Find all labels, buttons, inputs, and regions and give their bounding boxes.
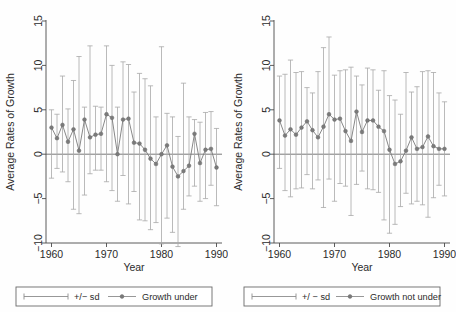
data-point-marker (160, 152, 164, 156)
x-tick-label: 1990 (205, 248, 228, 260)
data-point-marker (371, 119, 375, 123)
x-tick-label: 1960 (40, 248, 64, 260)
data-point-marker (316, 135, 320, 139)
data-point-marker (393, 162, 397, 166)
data-point-marker (77, 149, 81, 153)
data-point-marker (99, 132, 103, 136)
y-tick-label: 10 (32, 59, 44, 71)
data-point-marker (127, 117, 131, 121)
data-point-marker (215, 166, 219, 170)
data-point-marker (426, 135, 430, 139)
data-point-marker (132, 141, 136, 145)
x-tick-label: 1960 (268, 248, 292, 260)
legend-series-marker (120, 295, 124, 299)
x-tick-label: 1980 (150, 248, 174, 260)
data-point-marker (105, 112, 109, 116)
data-point-marker (61, 123, 65, 127)
data-point-marker (72, 127, 76, 131)
data-point-marker (176, 175, 180, 179)
data-point-marker (94, 133, 98, 137)
growth-rates-figure: −10−50510151960197019801990Average Rates… (0, 0, 456, 312)
left-panel: −10−50510151960197019801990Average Rates… (0, 0, 228, 312)
data-point-marker (143, 148, 147, 152)
data-point-marker (55, 136, 59, 140)
y-tick-label: 5 (260, 107, 272, 113)
right-panel: −10−50510151960197019801990Average Rates… (228, 0, 456, 312)
data-point-marker (399, 159, 403, 163)
left-panel-plot: −10−50510151960197019801990Average Rates… (0, 0, 228, 312)
data-point-marker (410, 135, 414, 139)
data-point-marker (138, 142, 142, 146)
data-point-marker (110, 116, 114, 120)
x-axis-title: Year (351, 261, 373, 273)
data-point-marker (311, 128, 315, 132)
y-tick-label: 15 (260, 15, 272, 27)
y-axis-title: Average Rates of Growth (4, 73, 16, 191)
data-point-marker (289, 127, 293, 131)
data-point-marker (50, 126, 54, 130)
y-tick-label: 5 (32, 107, 44, 113)
x-tick-label: 1980 (378, 248, 402, 260)
legend-sd-label: +/− sd (74, 292, 100, 302)
data-point-marker (382, 129, 386, 133)
right-panel-plot: −10−50510151960197019801990Average Rates… (228, 0, 456, 312)
data-point-marker (338, 117, 342, 121)
data-point-marker (305, 119, 309, 123)
data-point-marker (278, 119, 282, 123)
y-tick-label: 10 (260, 59, 272, 71)
data-point-marker (333, 118, 337, 122)
legend-series-label: Growth not under (370, 292, 441, 302)
y-tick-label: −5 (260, 192, 272, 204)
data-point-marker (366, 119, 370, 123)
data-point-marker (377, 125, 381, 129)
x-axis-title: Year (123, 261, 145, 273)
data-point-marker (116, 152, 120, 156)
data-point-marker (349, 139, 353, 143)
data-point-marker (165, 143, 169, 147)
data-point-marker (171, 165, 175, 169)
x-tick-label: 1970 (95, 248, 119, 260)
data-point-marker (327, 112, 331, 116)
data-point-marker (322, 125, 326, 129)
data-point-marker (88, 135, 92, 139)
data-point-marker (294, 133, 298, 137)
data-point-marker (121, 118, 125, 122)
data-point-marker (209, 147, 213, 151)
data-point-marker (437, 147, 441, 151)
data-point-marker (198, 161, 202, 165)
data-point-marker (344, 129, 348, 133)
y-axis-title: Average Rates of Growth (232, 73, 244, 191)
data-point-marker (388, 148, 392, 152)
data-point-marker (300, 126, 304, 130)
y-tick-label: 0 (32, 151, 44, 157)
data-point-marker (355, 110, 359, 114)
data-point-marker (432, 144, 436, 148)
data-point-marker (187, 164, 191, 168)
data-point-marker (443, 147, 447, 151)
data-point-marker (404, 149, 408, 153)
error-bars-group (277, 37, 447, 233)
y-tick-label: −5 (32, 192, 44, 204)
x-tick-label: 1990 (433, 248, 456, 260)
legend-sd-label: +/ − sd (302, 292, 330, 302)
data-point-marker (283, 134, 287, 138)
data-point-marker (421, 145, 425, 149)
data-point-marker (415, 147, 419, 151)
data-point-marker (149, 157, 153, 161)
y-tick-label: 15 (32, 15, 44, 27)
y-tick-label: 0 (260, 151, 272, 157)
data-point-marker (154, 162, 158, 166)
legend-series-label: Growth under (142, 292, 198, 302)
data-point-marker (66, 140, 70, 144)
data-point-marker (182, 169, 186, 173)
data-point-marker (83, 118, 87, 122)
x-tick-label: 1970 (323, 248, 347, 260)
legend-series-marker (348, 295, 352, 299)
data-point-marker (204, 148, 208, 152)
data-point-marker (360, 130, 364, 134)
data-point-marker (193, 132, 197, 136)
error-bars-group (49, 46, 219, 247)
